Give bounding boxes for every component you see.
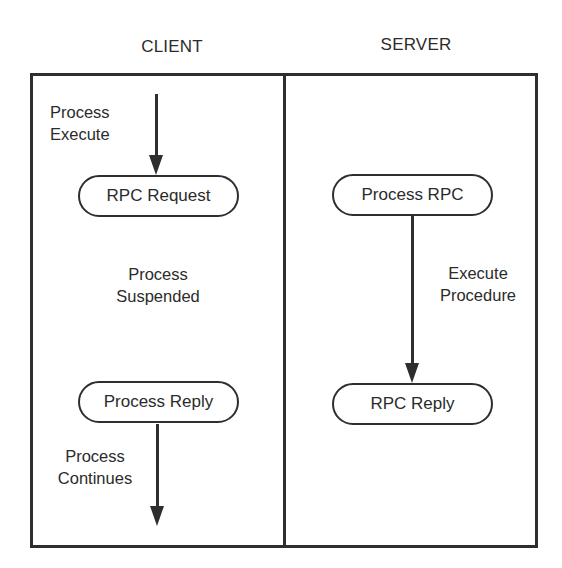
process-rpc-node: Process RPC	[332, 174, 493, 216]
client-continue-arrowhead-icon	[150, 506, 164, 526]
client-column-title: CLIENT	[92, 37, 252, 57]
process-execute-line1: Process	[50, 101, 110, 123]
server-execute-arrowhead-icon	[405, 363, 419, 383]
process-execute-line2: Execute	[50, 123, 110, 145]
rpc-reply-node: RPC Reply	[332, 383, 493, 425]
server-column-title: SERVER	[336, 35, 496, 55]
process-suspended-line2: Suspended	[98, 285, 218, 307]
execute-procedure-label: Execute Procedure	[428, 262, 528, 306]
process-reply-label: Process Reply	[104, 392, 214, 412]
rpc-request-label: RPC Request	[107, 186, 211, 206]
client-execute-arrow-line	[155, 94, 158, 158]
execute-procedure-line1: Execute	[428, 262, 528, 284]
client-server-divider	[283, 73, 286, 548]
process-reply-node: Process Reply	[78, 381, 239, 423]
process-continues-line1: Process	[48, 445, 142, 467]
execute-procedure-line2: Procedure	[428, 284, 528, 306]
server-execute-arrow-line	[411, 216, 414, 366]
rpc-request-node: RPC Request	[78, 175, 239, 217]
client-execute-arrowhead-icon	[149, 155, 163, 175]
process-suspended-label: Process Suspended	[98, 263, 218, 307]
rpc-reply-label: RPC Reply	[370, 394, 454, 414]
process-execute-label: Process Execute	[50, 101, 110, 145]
process-continues-line2: Continues	[48, 467, 142, 489]
client-continue-arrow-line	[156, 424, 159, 510]
process-continues-label: Process Continues	[48, 445, 142, 489]
process-suspended-line1: Process	[98, 263, 218, 285]
process-rpc-label: Process RPC	[361, 185, 463, 205]
